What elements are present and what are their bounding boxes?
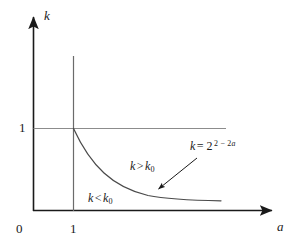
region-greater-operator: > — [135, 159, 145, 173]
equation-exponent-variable: a — [231, 139, 235, 148]
equation-base: 2 — [205, 139, 214, 153]
y-tick-label-1: 1 — [19, 121, 26, 134]
equation-exponent-coefficient: 2 − 2 — [214, 139, 231, 148]
region-label-k-greater: k>k0 — [130, 160, 155, 174]
region-less-operator: < — [93, 191, 103, 205]
x-axis-label: a — [277, 220, 284, 233]
x-tick-label-1: 1 — [70, 222, 77, 235]
region-label-k-less: k<k0 — [88, 192, 113, 206]
y-axis-label: k — [44, 9, 50, 22]
equation-leader-line — [159, 158, 198, 189]
region-less-ref-subscript: 0 — [108, 197, 112, 206]
equation-operator: = — [195, 139, 205, 153]
origin-label: 0 — [16, 222, 23, 235]
equation-exponent: 2 − 2a — [214, 139, 235, 148]
curve-equation-label: k=22 − 2a — [190, 140, 236, 152]
graph-canvas — [0, 0, 299, 251]
region-greater-ref-subscript: 0 — [150, 165, 154, 174]
figure-container: k a 0 1 1 k>k0 k<k0 k=22 − 2a — [0, 0, 299, 251]
